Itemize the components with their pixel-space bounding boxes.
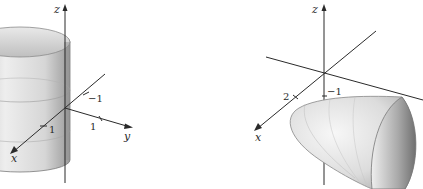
z-axis-arrow [63,4,68,11]
x-axis-label: x [11,152,18,165]
y-axis-label: y [123,130,131,143]
tick-label-x-one: 1 [49,124,55,135]
tick-label-neg-one: −1 [327,86,342,97]
tick-label-neg-one: −1 [88,93,103,104]
z-axis-arrow [322,4,327,11]
y-axis [65,108,130,127]
cylinder-figure: z y x −1 1 1 [0,3,133,183]
y-axis-arrow [124,124,133,130]
tick-label-two: 2 [283,91,289,102]
y-axis-line [266,57,423,100]
z-axis-label: z [53,3,60,16]
paraboloid-figure: z x 2 −1 [254,3,423,189]
z-axis-label: z [311,3,318,16]
x-axis-arrow [254,123,262,131]
x-axis-label: x [255,131,262,144]
figure-canvas: z y x −1 1 1 z x 2 −1 [0,0,423,189]
tick-label-y-one: 1 [90,121,96,132]
